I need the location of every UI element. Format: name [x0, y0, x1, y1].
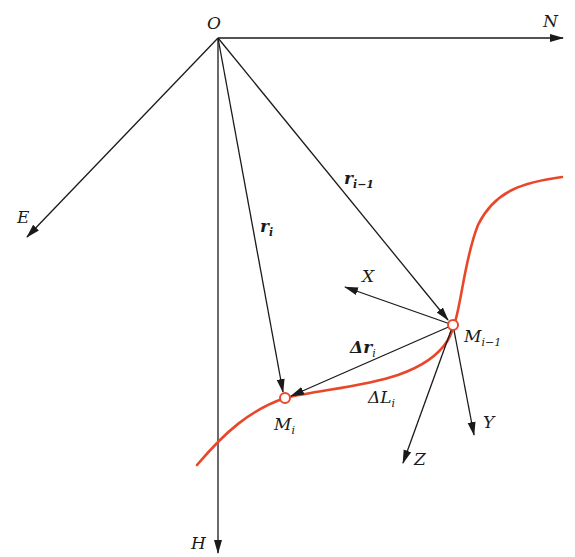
- label-m-i-minus-1: Mi−1: [463, 326, 501, 349]
- label-n: N: [542, 11, 559, 31]
- label-o: O: [207, 13, 221, 33]
- label-r-i-minus-1: ri−1: [344, 168, 374, 191]
- e-axis: [27, 38, 218, 237]
- r-i-vector: [218, 38, 283, 392]
- wellbore-trajectory-diagram: O N E H ri ri−1 X Y Z Mi−1 Mi Δri ΔLi: [0, 0, 575, 557]
- label-m-i: Mi: [273, 414, 295, 437]
- label-y: Y: [483, 412, 496, 432]
- label-h: H: [190, 533, 207, 553]
- point-m-i-minus-1: [448, 320, 458, 330]
- r-i-minus-1-vector: [218, 38, 448, 320]
- label-x: X: [360, 266, 375, 286]
- label-delta-r-i: Δri: [349, 337, 376, 360]
- label-z: Z: [413, 449, 427, 469]
- label-e: E: [16, 207, 30, 227]
- point-m-i: [280, 393, 290, 403]
- label-delta-l-i: ΔLi: [367, 387, 395, 410]
- label-r-i: ri: [260, 216, 273, 239]
- z-axis-local: [403, 325, 453, 463]
